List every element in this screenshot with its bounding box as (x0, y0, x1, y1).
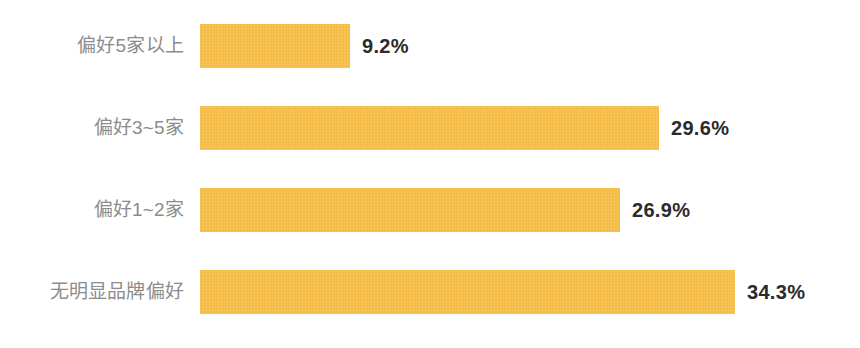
bar-category-label: 偏好3~5家 (0, 118, 200, 139)
bar-fill (200, 24, 350, 68)
bar-value-label: 9.2% (362, 35, 409, 58)
bar-row: 偏好1~2家 26.9% (0, 188, 860, 232)
bar-category-label: 偏好1~2家 (0, 200, 200, 221)
bar-track: 26.9% (200, 188, 860, 232)
bar-track: 9.2% (200, 24, 860, 68)
bar-value-label: 26.9% (632, 199, 690, 222)
horizontal-bar-chart: 偏好5家以上 9.2% 偏好3~5家 29.6% 偏好1~2家 26.9% 无明… (0, 0, 860, 348)
bar-fill (200, 188, 620, 232)
bar-category-label: 偏好5家以上 (0, 36, 200, 57)
bar-fill (200, 106, 659, 150)
bar-track: 29.6% (200, 106, 860, 150)
bar-fill (200, 270, 735, 314)
bar-value-label: 29.6% (671, 117, 729, 140)
bar-row: 无明显品牌偏好 34.3% (0, 270, 860, 314)
bar-track: 34.3% (200, 270, 860, 314)
bar-value-label: 34.3% (747, 281, 805, 304)
bar-row: 偏好3~5家 29.6% (0, 106, 860, 150)
bar-category-label: 无明显品牌偏好 (0, 282, 200, 303)
bar-row: 偏好5家以上 9.2% (0, 24, 860, 68)
